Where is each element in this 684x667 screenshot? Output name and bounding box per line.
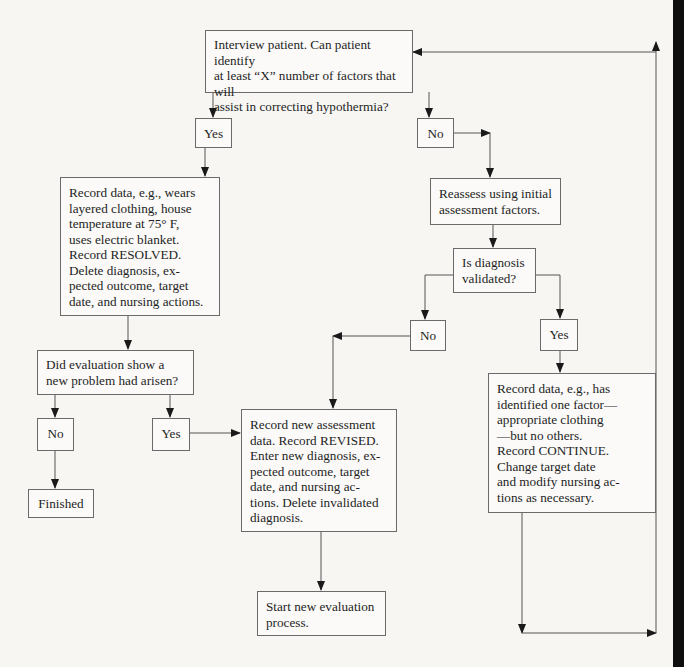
- no-box-2: No: [410, 320, 446, 351]
- new-problem-question-box: Did evaluation show a new problem had ar…: [37, 350, 194, 395]
- start-question-box: Interview patient. Can patient identify …: [205, 30, 413, 93]
- no-box-3: No: [37, 418, 74, 451]
- no-box-1: No: [417, 118, 454, 148]
- start-new-evaluation-box: Start new evaluation process.: [257, 591, 386, 636]
- yes-box-2: Yes: [540, 319, 578, 351]
- finished-box: Finished: [28, 489, 94, 518]
- yes-box-1: Yes: [195, 118, 232, 148]
- yes-box-3: Yes: [152, 418, 190, 451]
- revised-action-box: Record new assessment data. Record REVIS…: [241, 409, 397, 532]
- reassess-box: Reassess using initial assessment factor…: [430, 178, 561, 225]
- validated-question-box: Is diagnosis validated?: [453, 248, 536, 293]
- resolved-action-box: Record data, e.g., wears layered clothin…: [60, 177, 220, 316]
- continue-action-box: Record data, e.g., has identified one fa…: [488, 373, 656, 513]
